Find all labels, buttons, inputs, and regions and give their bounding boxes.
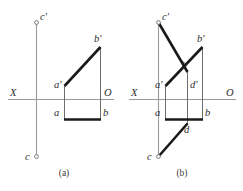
panel-b-point-c-marker (157, 155, 161, 159)
caption-row: (a) (b) (0, 168, 243, 188)
panel-b-label-o: O (226, 87, 234, 98)
panel-a-label-c-prime: c' (40, 11, 48, 22)
panel-a-label-b: b (103, 107, 108, 118)
panel-a-label-a-prime: a' (54, 79, 62, 90)
panel-b-label-a: a (155, 107, 160, 118)
panel-b-label-x: X (130, 87, 138, 98)
panel-b-label-b-prime: b' (197, 33, 205, 44)
panel-a-label-x: X (9, 87, 17, 98)
projection-panel-a: c' X O a' b' a b c (0, 0, 121, 168)
panel-a-label-b-prime: b' (94, 33, 102, 44)
caption-panel-a: (a) (44, 168, 84, 178)
panel-a-point-c-prime-marker (35, 21, 39, 25)
panel-b-label-c: c (147, 151, 152, 162)
panel-b-label-d: d (184, 124, 190, 135)
projection-panel-b: c' X O a' d' b' a d b c (121, 0, 243, 168)
panel-b-label-a-prime: a' (155, 79, 163, 90)
panel-b-label-d-prime: d' (190, 79, 198, 90)
panel-b-label-c-prime: c' (162, 11, 170, 22)
panel-a-edge-a-prime-b-prime (65, 47, 101, 86)
panel-a-label-o: O (104, 87, 112, 98)
figure-root: c' X O a' b' a b c c' X O a' d' b' a (0, 0, 243, 191)
panel-b-point-c-prime-marker (157, 21, 161, 25)
panel-b-label-b: b (205, 107, 210, 118)
panel-a-label-c: c (25, 151, 30, 162)
panel-b-edge-c-prime-d-prime (159, 23, 188, 73)
panel-a-point-c-marker (35, 155, 39, 159)
caption-panel-b: (b) (162, 168, 202, 178)
panel-a-label-a: a (54, 107, 59, 118)
